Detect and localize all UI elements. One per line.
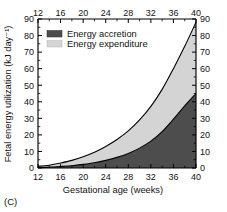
top-tick-label: 16: [56, 8, 66, 18]
figure-panel-c: 1212161620202424282832323636404000101020…: [0, 0, 227, 212]
y-tick-label: 80: [24, 31, 34, 41]
top-tick-label: 32: [146, 8, 156, 18]
right-tick-label: 30: [200, 114, 210, 124]
top-tick-label: 24: [101, 8, 111, 18]
legend-label-energy-accretion: Energy accretion: [67, 29, 137, 39]
right-tick-label: 90: [200, 14, 210, 24]
x-tick-label: 20: [78, 172, 88, 182]
x-tick-label: 12: [33, 172, 43, 182]
legend-swatch-energy-accretion: [47, 31, 62, 38]
x-tick-label: 32: [146, 172, 156, 182]
right-tick-label: 20: [200, 130, 210, 140]
top-tick-label: 12: [33, 8, 43, 18]
energy-utilization-chart: 1212161620202424282832323636404000101020…: [0, 0, 227, 212]
y-tick-label: 10: [24, 147, 34, 157]
y-tick-label: 70: [24, 47, 34, 57]
right-tick-label: 60: [200, 64, 210, 74]
y-tick-label: 50: [24, 81, 34, 91]
y-tick-label: 30: [24, 114, 34, 124]
y-axis-title: Fetal energy utilization (kJ day⁻¹): [3, 26, 13, 163]
legend-swatch-energy-expenditure: [47, 41, 62, 48]
x-tick-label: 24: [101, 172, 111, 182]
y-tick-label: 90: [24, 14, 34, 24]
right-tick-label: 40: [200, 97, 210, 107]
y-tick-label: 0: [29, 163, 34, 173]
y-tick-label: 60: [24, 64, 34, 74]
y-tick-label: 40: [24, 97, 34, 107]
right-tick-label: 70: [200, 47, 210, 57]
panel-label: (C): [4, 196, 17, 207]
x-tick-label: 28: [123, 172, 133, 182]
legend-label-energy-expenditure: Energy expenditure: [67, 39, 148, 49]
right-tick-label: 0: [200, 163, 205, 173]
right-tick-label: 80: [200, 31, 210, 41]
right-tick-label: 50: [200, 81, 210, 91]
x-tick-label: 16: [56, 172, 66, 182]
right-tick-label: 10: [200, 147, 210, 157]
top-tick-label: 36: [168, 8, 178, 18]
x-axis-title: Gestational age (weeks): [63, 185, 163, 195]
x-tick-label: 36: [168, 172, 178, 182]
y-tick-label: 20: [24, 130, 34, 140]
top-tick-label: 20: [78, 8, 88, 18]
top-tick-label: 28: [123, 8, 133, 18]
